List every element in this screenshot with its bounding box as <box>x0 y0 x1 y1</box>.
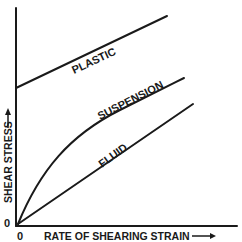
y-axis-label: SHEAR STRESS <box>2 121 14 203</box>
x-axis-label: RATE OF SHEARING STRAIN <box>44 230 190 242</box>
flow-curves-diagram: PLASTIC SUSPENSION FLUID 0 0 RATE OF SHE… <box>0 0 242 242</box>
fluid-label: FLUID <box>96 141 129 170</box>
suspension-label: SUSPENSION <box>95 78 165 121</box>
y-origin-label: 0 <box>4 217 10 229</box>
x-axis-arrow-icon <box>192 233 216 239</box>
x-origin-label: 0 <box>17 230 23 242</box>
plastic-label: PLASTIC <box>70 45 118 76</box>
plastic-curve <box>16 16 167 88</box>
suspension-curve <box>18 78 184 224</box>
